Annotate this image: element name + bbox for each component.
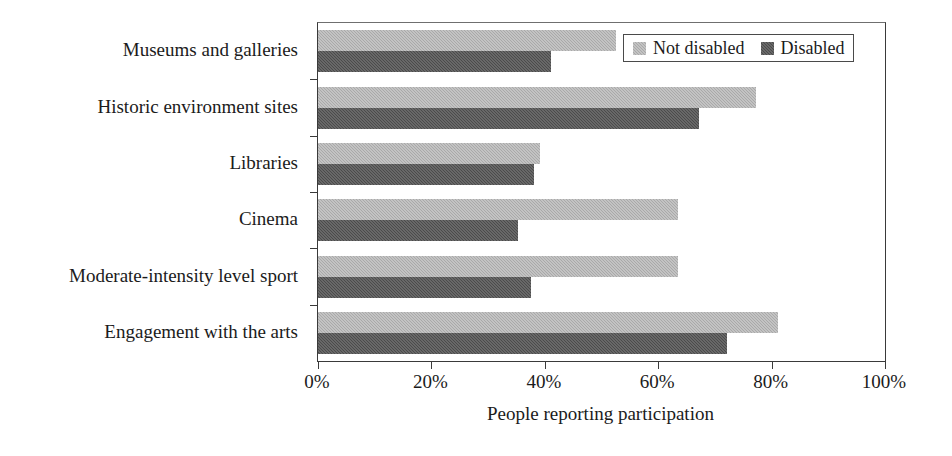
value-axis-tick-label: 40% [526, 372, 561, 391]
category-axis-tick [310, 79, 318, 80]
bar-disabled [318, 164, 534, 185]
category-axis-labels: Museums and galleries Historic environme… [0, 22, 308, 360]
value-axis-tick-label: 80% [753, 372, 788, 391]
legend-swatch-icon [633, 42, 646, 55]
legend-entry-disabled: Disabled [761, 39, 845, 57]
legend-swatch-icon [761, 42, 774, 55]
category-label: Libraries [0, 153, 298, 172]
legend-label: Not disabled [653, 39, 745, 57]
value-axis-tick-label: 0% [304, 372, 329, 391]
value-axis-tick-label: 20% [413, 372, 448, 391]
bar-series-container [318, 23, 885, 361]
category-label: Engagement with the arts [0, 322, 298, 341]
bar-not-disabled [318, 30, 616, 51]
bar-not-disabled [318, 256, 678, 277]
bar-disabled [318, 333, 727, 354]
category-label: Cinema [0, 209, 298, 228]
bar-not-disabled [318, 312, 778, 333]
bar-disabled [318, 277, 531, 298]
value-axis-tick [318, 361, 319, 369]
legend-entry-not-disabled: Not disabled [633, 39, 745, 57]
value-axis-tick-label: 60% [640, 372, 675, 391]
category-label: Moderate-intensity level sport [0, 266, 298, 285]
x-axis-title: People reporting participation [317, 404, 884, 423]
value-axis-tick [431, 361, 432, 369]
bar-not-disabled [318, 199, 678, 220]
bar-not-disabled [318, 87, 756, 108]
category-axis-tick [310, 305, 318, 306]
category-label: Museums and galleries [0, 40, 298, 59]
bar-disabled [318, 220, 518, 241]
category-label: Historic environment sites [0, 97, 298, 116]
value-axis-tick [545, 361, 546, 369]
plot-area: Not disabled Disabled [317, 22, 886, 362]
bar-not-disabled [318, 143, 540, 164]
category-axis-tick [310, 136, 318, 137]
category-axis-tick [310, 248, 318, 249]
value-axis-tick-label: 100% [862, 372, 906, 391]
legend-label: Disabled [781, 39, 845, 57]
value-axis-tick [885, 361, 886, 369]
value-axis-tick [658, 361, 659, 369]
bar-disabled [318, 51, 551, 72]
chart-legend: Not disabled Disabled [623, 34, 854, 62]
value-axis-tick [772, 361, 773, 369]
bar-disabled [318, 108, 699, 129]
bar-chart-figure: Museums and galleries Historic environme… [0, 0, 952, 456]
category-axis-tick [310, 192, 318, 193]
